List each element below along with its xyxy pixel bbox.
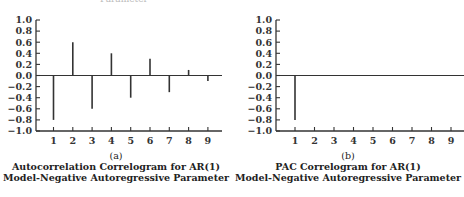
acf-tag: (a) <box>0 150 232 161</box>
y-tick-label: 1.0 <box>15 14 32 25</box>
pacf-title: PAC Correlogram for AR(1) <box>232 161 464 172</box>
y-tick-label: 0.6 <box>15 37 32 48</box>
acf-caption: (a) Autocorrelation Correlogram for AR(1… <box>0 150 232 183</box>
x-tick-label: 1 <box>50 135 57 146</box>
x-tick-label: 7 <box>409 135 416 146</box>
pacf-tag: (b) <box>232 150 464 161</box>
y-tick-label: 0.2 <box>255 59 272 70</box>
x-tick-label: 2 <box>311 135 318 146</box>
x-tick-label: 9 <box>448 135 455 146</box>
acf-title: Autocorrelation Correlogram for AR(1) <box>0 161 232 172</box>
x-tick-label: 9 <box>205 135 212 146</box>
y-tick-label: −0.8 <box>248 114 273 125</box>
y-tick-label: −0.6 <box>248 103 273 114</box>
y-tick-label: 1.0 <box>255 14 272 25</box>
x-tick-label: 1 <box>292 135 299 146</box>
y-tick-label: 0.4 <box>255 48 272 59</box>
acf-subtitle: Model-Negative Autoregressive Parameter <box>0 172 232 183</box>
y-tick-label: 0.0 <box>255 70 272 81</box>
pacf-subtitle: Model-Negative Autoregressive Parameter <box>232 172 464 183</box>
y-tick-label: −0.2 <box>8 81 33 92</box>
y-tick-label: −0.8 <box>8 114 33 125</box>
y-tick-label: 0.8 <box>255 25 272 36</box>
pacf-chart: 1.00.80.60.40.20.0−0.2−0.4−0.6−0.8−1.012… <box>248 14 464 146</box>
y-tick-label: −0.4 <box>248 92 273 103</box>
x-tick-label: 7 <box>166 135 173 146</box>
x-tick-label: 3 <box>89 135 96 146</box>
acf-chart: 1.00.80.60.40.20.0−0.2−0.4−0.6−0.8−1.012… <box>8 14 223 146</box>
x-tick-label: 5 <box>370 135 377 146</box>
y-tick-label: 0.2 <box>15 59 32 70</box>
x-tick-label: 4 <box>350 135 357 146</box>
y-tick-label: −1.0 <box>8 125 33 136</box>
x-tick-label: 3 <box>331 135 338 146</box>
x-tick-label: 8 <box>185 135 192 146</box>
pacf-caption: (b) PAC Correlogram for AR(1) Model-Nega… <box>232 150 464 183</box>
y-tick-label: 0.6 <box>255 37 272 48</box>
y-tick-label: −0.4 <box>8 92 33 103</box>
y-tick-label: 0.8 <box>15 25 32 36</box>
y-tick-label: 0.0 <box>15 70 32 81</box>
x-tick-label: 2 <box>69 135 76 146</box>
y-tick-label: −1.0 <box>248 125 273 136</box>
y-tick-label: −0.6 <box>8 103 33 114</box>
x-tick-label: 5 <box>127 135 134 146</box>
x-tick-label: 8 <box>428 135 435 146</box>
x-tick-label: 6 <box>389 135 396 146</box>
y-tick-label: 0.4 <box>15 48 32 59</box>
y-tick-label: −0.2 <box>248 81 273 92</box>
x-tick-label: 6 <box>147 135 154 146</box>
x-tick-label: 4 <box>108 135 115 146</box>
